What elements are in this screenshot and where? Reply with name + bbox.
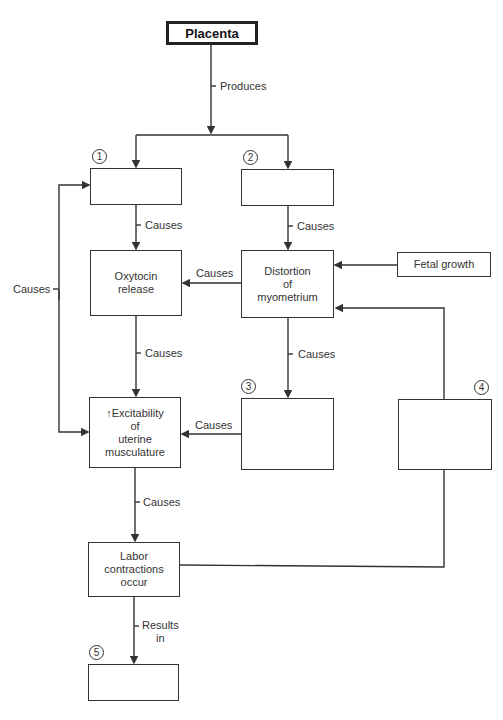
node-excitability-label: ↑Excitability of uterine musculature: [105, 407, 165, 459]
edge-loop-excitability: [59, 290, 88, 432]
node-placenta: Placenta: [166, 21, 258, 45]
edge-label-distortion-oxytocin: Causes: [196, 267, 233, 280]
node-oxytocin-label: Oxytocin release: [115, 270, 158, 296]
node-labor-contractions: Labor contractions occur: [88, 542, 180, 597]
number-badge-2: 2: [243, 150, 258, 165]
edge-label-box2-distortion: Causes: [297, 220, 334, 233]
node-distortion-myometrium: Distortion of myometrium: [241, 250, 334, 318]
number-badge-1: 1: [92, 149, 107, 164]
node-excitability: ↑Excitability of uterine musculature: [89, 397, 181, 468]
edge-label-distortion-box3: Causes: [298, 348, 335, 361]
edge-box4-distortion: [336, 308, 444, 399]
number-badge-3: 3: [241, 379, 256, 394]
edge-loop-box1: [59, 185, 89, 300]
node-blank-3: [241, 398, 334, 470]
edge-label-box3-excitability: Causes: [195, 419, 232, 432]
node-blank-4: [398, 399, 492, 470]
edge-label-produces: Produces: [220, 80, 266, 93]
node-distortion-label: Distortion of myometrium: [257, 265, 318, 304]
number-badge-5: 5: [89, 645, 104, 660]
edge-label-excitability-labor: Causes: [143, 496, 180, 509]
edge-labor-box4: [180, 470, 444, 567]
edge-label-loop: Causes: [13, 283, 50, 296]
edge-label-box1-oxytocin: Causes: [145, 219, 182, 232]
node-labor-label: Labor contractions occur: [104, 550, 163, 589]
node-fetal-growth-label: Fetal growth: [414, 258, 475, 271]
node-oxytocin-release: Oxytocin release: [90, 250, 182, 316]
edge-label-results-in: Results in: [142, 619, 179, 645]
node-blank-1: [90, 168, 182, 205]
connector-lines: [0, 0, 503, 720]
node-blank-2: [241, 169, 334, 206]
node-blank-5: [88, 664, 179, 701]
edge-label-oxytocin-excitability: Causes: [145, 347, 182, 360]
node-fetal-growth: Fetal growth: [397, 252, 491, 277]
node-placenta-label: Placenta: [185, 27, 238, 40]
number-badge-4: 4: [474, 380, 489, 395]
